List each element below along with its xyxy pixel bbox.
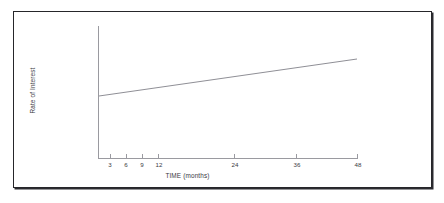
plot-surface: 3 6 9 12 24 36 48 TIME (months) Rate of …: [14, 12, 431, 187]
x-tick-label-6: 6: [124, 161, 127, 168]
y-axis-title: Rate of Interest: [29, 56, 36, 126]
figure-root: 3 6 9 12 24 36 48 TIME (months) Rate of …: [0, 0, 444, 203]
x-tick-label-12: 12: [156, 161, 163, 168]
x-tick-label-3: 3: [108, 161, 111, 168]
chart-frame: 3 6 9 12 24 36 48 TIME (months) Rate of …: [13, 11, 432, 188]
x-tick-label-24: 24: [232, 161, 239, 168]
x-axis-ticks: [111, 154, 358, 159]
x-tick-label-9: 9: [140, 161, 143, 168]
x-axis-title: TIME (months): [14, 172, 433, 179]
data-line-rate-of-interest: [99, 59, 357, 96]
line-chart-svg: [14, 12, 433, 189]
x-tick-label-48: 48: [355, 161, 362, 168]
x-tick-label-36: 36: [294, 161, 301, 168]
